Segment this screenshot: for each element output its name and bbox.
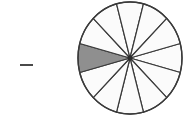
fraction-circle-figure (76, 0, 186, 120)
minus-sign-icon (20, 64, 33, 66)
figure-canvas (0, 0, 194, 123)
center-dot (128, 56, 133, 61)
fraction-circle-icon (76, 0, 186, 120)
